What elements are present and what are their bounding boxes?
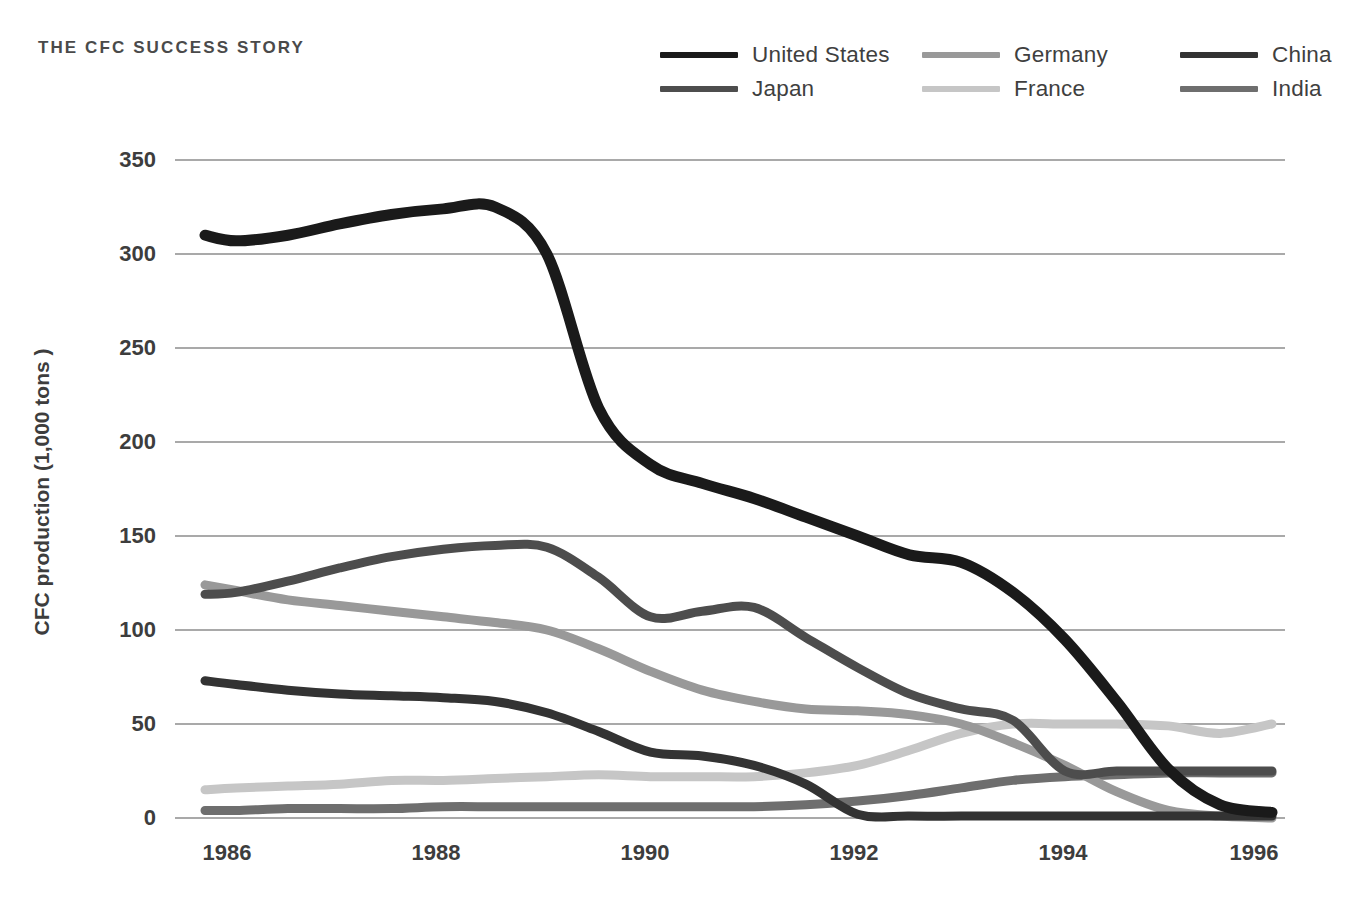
chart-page: THE CFC SUCCESS STORY United States Germ… [0, 0, 1349, 913]
chart-plot-area [0, 0, 1349, 913]
figure-caption [0, 898, 1349, 913]
data-series [205, 204, 1272, 818]
series-line-japan[interactable] [205, 544, 1272, 775]
series-line-france[interactable] [205, 723, 1272, 789]
